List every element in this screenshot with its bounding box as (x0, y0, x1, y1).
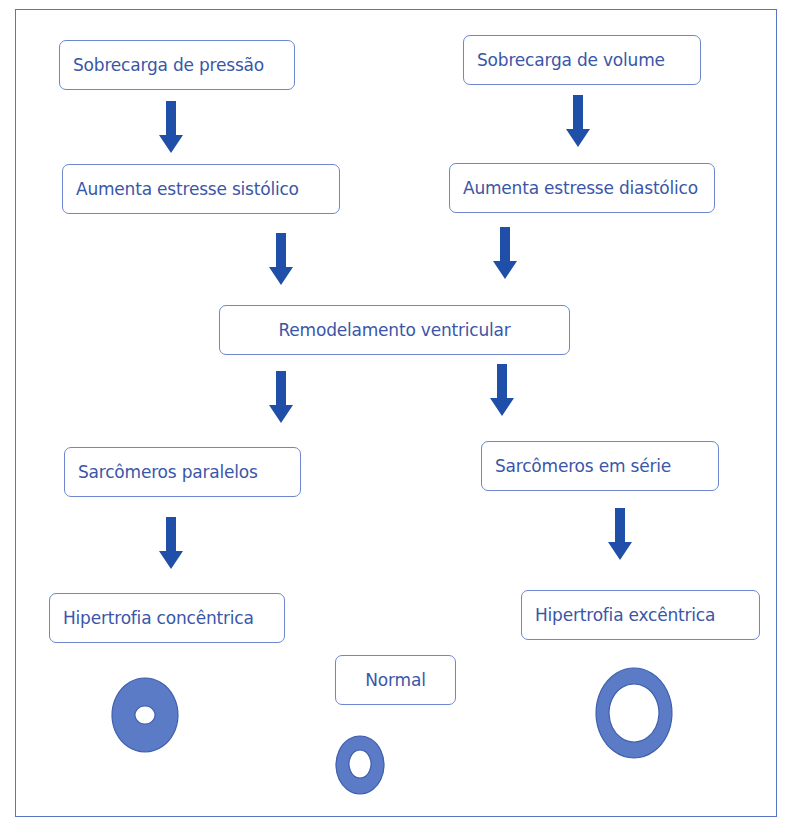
node-eccentric-hypertrophy: Hipertrofia excêntrica (521, 590, 760, 640)
node-diastolic-stress: Aumenta estresse diastólico (449, 163, 715, 213)
node-pressure-overload: Sobrecarga de pressão (59, 40, 295, 90)
arrow-down-icon (490, 364, 514, 416)
node-ventricular-remodeling: Remodelamento ventricular (219, 305, 570, 355)
normal-ring-icon (334, 734, 386, 796)
arrow-down-icon (269, 233, 293, 285)
arrow-down-icon (493, 227, 517, 279)
node-volume-overload: Sobrecarga de volume (463, 35, 701, 85)
concentric-ring-icon (110, 676, 180, 754)
arrow-down-icon (269, 371, 293, 423)
node-series-sarcomeres: Sarcômeros em série (481, 441, 719, 491)
arrow-down-icon (159, 517, 183, 569)
node-systolic-stress: Aumenta estresse sistólico (62, 164, 340, 214)
arrow-down-icon (566, 95, 590, 147)
node-concentric-hypertrophy: Hipertrofia concêntrica (49, 593, 285, 643)
arrow-down-icon (159, 101, 183, 153)
arrow-down-icon (608, 508, 632, 560)
node-normal: Normal (335, 655, 456, 705)
node-parallel-sarcomeres: Sarcômeros paralelos (64, 447, 301, 497)
eccentric-ring-icon (594, 666, 674, 760)
